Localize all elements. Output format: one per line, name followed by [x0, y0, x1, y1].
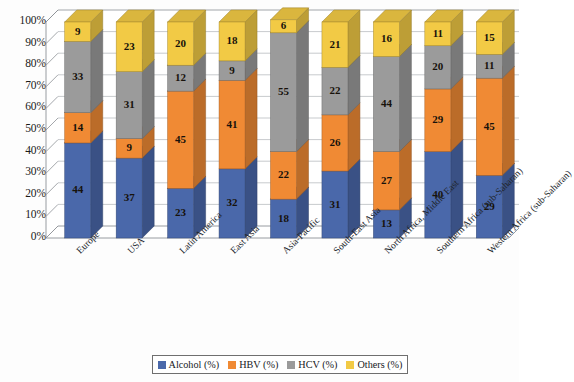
legend-item[interactable]: HCV (%)	[287, 359, 337, 370]
legend-item[interactable]: Alcohol (%)	[158, 359, 220, 370]
legend-label: Others (%)	[357, 359, 402, 370]
bars-group	[65, 8, 515, 238]
legend-swatch-icon	[287, 361, 295, 369]
legend-swatch-icon	[158, 361, 166, 369]
chart-legend: Alcohol (%)HBV (%)HCV (%)Others (%)	[152, 355, 408, 374]
legend-label: HCV (%)	[298, 359, 337, 370]
legend-swatch-icon	[346, 361, 354, 369]
legend-label: Alcohol (%)	[169, 359, 220, 370]
legend-swatch-icon	[228, 361, 236, 369]
legend-item[interactable]: HBV (%)	[228, 359, 278, 370]
legend-item[interactable]: Others (%)	[346, 359, 402, 370]
legend-label: HBV (%)	[239, 359, 278, 370]
